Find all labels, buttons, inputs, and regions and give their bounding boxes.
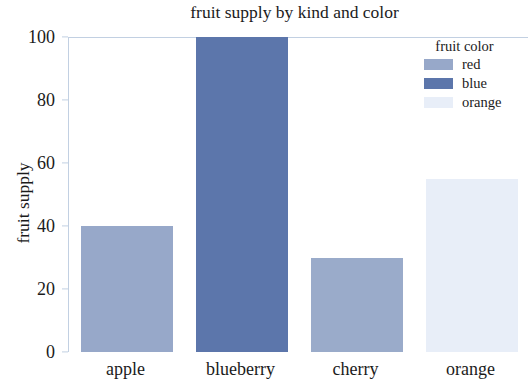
y-tick-label: 0 <box>46 343 55 361</box>
y-tick-label: 20 <box>37 280 55 298</box>
legend-swatch-icon <box>424 59 453 70</box>
y-tick-label: 40 <box>37 217 55 235</box>
bar-apple <box>81 226 173 352</box>
legend-entries: redblueorange <box>412 55 521 112</box>
legend-title: fruit color <box>412 38 521 55</box>
y-tick-label: 100 <box>28 28 55 46</box>
y-tick-label: 80 <box>37 91 55 109</box>
x-tick-label: cherry <box>333 358 379 380</box>
legend-item-orange: orange <box>412 93 521 112</box>
x-tick-label: orange <box>446 358 495 380</box>
chart-title: fruit supply by kind and color <box>68 1 521 23</box>
legend-swatch-icon <box>424 97 453 108</box>
bar-blueberry <box>196 37 288 352</box>
bar-orange <box>426 179 518 352</box>
x-tick-label: blueberry <box>206 358 275 380</box>
legend-item-blue: blue <box>412 74 521 93</box>
y-tick-label: 60 <box>37 154 55 172</box>
legend: fruit color redblueorange <box>412 38 521 112</box>
legend-swatch-icon <box>424 78 453 89</box>
legend-item-label: red <box>462 56 481 73</box>
legend-item-label: blue <box>462 75 487 92</box>
x-axis: appleblueberrycherryorange <box>68 354 528 386</box>
bar-cherry <box>311 258 403 353</box>
legend-item-label: orange <box>462 94 501 111</box>
legend-item-red: red <box>412 55 521 74</box>
x-tick-label: apple <box>106 358 145 380</box>
y-axis: 020406080100 <box>0 0 68 386</box>
